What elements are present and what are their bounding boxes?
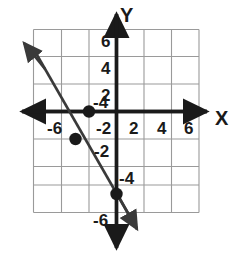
- y-tick-label-2: 2: [101, 86, 110, 105]
- y-tick-label-4: 4: [101, 59, 111, 78]
- y-tick-label-neg6: -6: [93, 211, 108, 230]
- x-tick-label-neg2: -2: [96, 119, 111, 138]
- x-tick-label-2: 2: [129, 119, 138, 138]
- x-axis-name-label: X: [215, 107, 229, 129]
- coordinate-plane-svg: -6 -4 -2 2 4 6 6 4 2 -2 -4 -6 Y X: [0, 0, 245, 259]
- y-tick-label-6: 6: [101, 32, 110, 51]
- y-axis-name-label: Y: [120, 4, 134, 26]
- y-tick-label-neg2: -2: [94, 142, 109, 161]
- figure-background: [0, 0, 245, 259]
- point-marker: [110, 188, 122, 200]
- graph-figure: -6 -4 -2 2 4 6 6 4 2 -2 -4 -6 Y X: [0, 0, 245, 259]
- x-tick-label-4: 4: [157, 119, 167, 138]
- x-tick-label-6: 6: [184, 119, 193, 138]
- x-tick-label-neg6: -6: [47, 119, 62, 138]
- point-marker: [69, 133, 81, 145]
- y-tick-label-neg4: -4: [119, 169, 135, 188]
